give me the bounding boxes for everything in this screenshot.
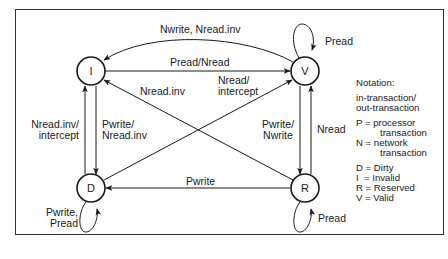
state-d-label: D bbox=[87, 182, 95, 194]
label-nwrite-nread-inv: Nwrite, Nread.inv bbox=[160, 24, 241, 35]
loop-v bbox=[293, 24, 313, 58]
label-r-loop-pread: Pread bbox=[318, 213, 346, 224]
state-d: D bbox=[77, 174, 105, 202]
state-diagram: I V D R Nwrite, Nread.inv Pread Pread/Nr… bbox=[0, 0, 448, 259]
label-nreadinv-intercept: Nread.inv/ intercept bbox=[26, 119, 79, 141]
label-d-loop-line2: Pread bbox=[36, 218, 78, 229]
label-pwrite-nreadinv-line2: Nread.inv bbox=[102, 130, 147, 141]
state-r: R bbox=[291, 174, 319, 202]
notation-format-line2: out-transaction bbox=[356, 103, 427, 113]
label-nread-intercept: Nread/ intercept bbox=[218, 75, 258, 97]
notation-n-line2: transaction bbox=[356, 148, 427, 158]
notation-title: Notation: bbox=[356, 78, 427, 88]
label-pread-nread: Pread/Nread bbox=[170, 57, 230, 68]
label-nread: Nread bbox=[317, 124, 346, 135]
notation-legend: Notation: in-transaction/ out-transactio… bbox=[356, 78, 427, 203]
label-nread-intercept-line2: intercept bbox=[218, 86, 258, 97]
loop-d bbox=[80, 202, 98, 232]
state-i: I bbox=[77, 57, 105, 85]
label-nread-inv: Nread.inv bbox=[140, 86, 185, 97]
state-v-label: V bbox=[301, 65, 309, 77]
state-v: V bbox=[291, 57, 319, 85]
label-d-loop: Pwrite, Pread bbox=[36, 207, 78, 229]
notation-v: V = Valid bbox=[356, 193, 427, 203]
loop-r bbox=[294, 202, 312, 232]
label-nreadinv-intercept-line2: intercept bbox=[26, 130, 79, 141]
label-pwrite-nreadinv: Pwrite/ Nread.inv bbox=[102, 119, 147, 141]
label-pwrite-nwrite-line2: Nwrite bbox=[260, 130, 296, 141]
state-i-label: I bbox=[89, 65, 92, 77]
label-pwrite-nwrite: Pwrite/ Nwrite bbox=[260, 119, 296, 141]
state-r-label: R bbox=[301, 182, 309, 194]
label-v-loop-pread: Pread bbox=[325, 36, 353, 47]
label-pwrite: Pwrite bbox=[186, 176, 215, 187]
